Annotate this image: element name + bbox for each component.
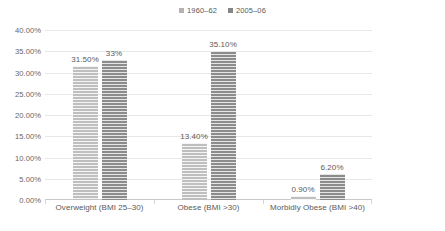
y-axis-tick-label: 20.00% bbox=[15, 111, 41, 120]
clipped-bottom-text-label bbox=[38, 226, 46, 229]
clipped-bottom-text bbox=[0, 226, 445, 231]
gridline bbox=[45, 30, 372, 31]
bar-series1[interactable] bbox=[73, 66, 98, 200]
y-axis-tick-label: 0.00% bbox=[19, 196, 41, 205]
gridline bbox=[45, 51, 372, 52]
bar-chart: 1960–62 2005–06 0.00%5.00%10.00%15.00%20… bbox=[0, 0, 445, 231]
y-axis-tick-label: 30.00% bbox=[15, 68, 41, 77]
y-axis-tick-label: 15.00% bbox=[15, 132, 41, 141]
bar-series1[interactable] bbox=[182, 143, 207, 200]
x-axis-labels: Overweight (BMI 25–30)Obese (BMI >30)Mor… bbox=[45, 203, 372, 217]
y-axis-labels: 0.00%5.00%10.00%15.00%20.00%25.00%30.00%… bbox=[0, 30, 41, 200]
legend-entry-1960-62[interactable]: 1960–62 bbox=[179, 6, 217, 15]
y-axis-tick-label: 10.00% bbox=[15, 153, 41, 162]
bar-value-label: 35.10% bbox=[205, 40, 242, 49]
y-axis-tick-label: 25.00% bbox=[15, 89, 41, 98]
bar-value-label: 0.90% bbox=[285, 185, 322, 194]
x-axis-category-label: Obese (BMI >30) bbox=[178, 203, 240, 212]
legend-label-1960-62: 1960–62 bbox=[187, 6, 217, 15]
x-axis-category-label: Overweight (BMI 25–30) bbox=[56, 203, 144, 212]
y-axis-tick-label: 5.00% bbox=[19, 174, 41, 183]
bar-series2[interactable] bbox=[211, 51, 236, 200]
bar-value-label: 13.40% bbox=[176, 132, 213, 141]
bar-series2[interactable] bbox=[320, 174, 345, 200]
y-axis-tick-label: 35.00% bbox=[15, 47, 41, 56]
bar-value-label: 33% bbox=[96, 49, 133, 58]
x-axis-category-label: Morbidly Obese (BMI >40) bbox=[270, 203, 365, 212]
y-axis-tick-label: 40.00% bbox=[15, 26, 41, 35]
plot-area: 31.50%33%13.40%35.10%0.90%6.20% bbox=[45, 30, 372, 200]
legend-label-2005-06: 2005–06 bbox=[236, 6, 266, 15]
legend-swatch-icon-2005-06 bbox=[228, 8, 233, 13]
legend-swatch-icon-1960-62 bbox=[179, 8, 184, 13]
legend-entry-2005-06[interactable]: 2005–06 bbox=[228, 6, 266, 15]
bar-series2[interactable] bbox=[102, 60, 127, 200]
bar-value-label: 6.20% bbox=[314, 163, 351, 172]
chart-legend: 1960–62 2005–06 bbox=[0, 4, 445, 17]
